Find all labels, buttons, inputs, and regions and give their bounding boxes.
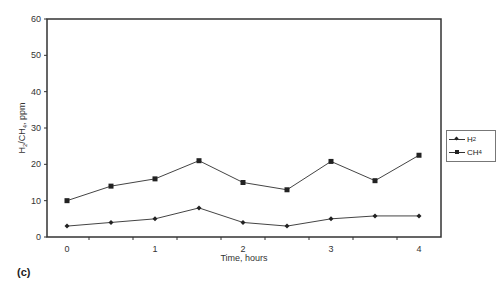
y-axis-label: H2/CH4, ppm [17, 102, 28, 153]
svg-text:0: 0 [64, 244, 69, 254]
diamond-marker-icon [449, 139, 465, 140]
x-axis-label: Time, hours [220, 253, 268, 263]
chart-legend: H2 CH4 [446, 130, 496, 162]
svg-text:50: 50 [31, 50, 41, 60]
svg-text:30: 30 [31, 123, 41, 133]
svg-text:4: 4 [416, 244, 421, 254]
legend-item-h2: H2 [449, 133, 476, 145]
panel-label: (c) [17, 266, 30, 278]
svg-text:60: 60 [31, 14, 41, 24]
svg-text:3: 3 [328, 244, 333, 254]
x-axis-ticks: 01234 [64, 237, 421, 254]
svg-text:1: 1 [152, 244, 157, 254]
legend-label-ch4: CH [467, 148, 479, 157]
svg-text:10: 10 [31, 196, 41, 206]
line-chart: 0102030405060 01234 Time, hours H2/CH4, … [0, 0, 501, 291]
legend-item-ch4: CH4 [449, 146, 482, 158]
data-series [65, 153, 422, 229]
y-axis-ticks: 0102030405060 [31, 14, 47, 242]
svg-text:20: 20 [31, 159, 41, 169]
plot-area-frame [47, 19, 441, 237]
legend-sub-ch4: 4 [479, 149, 482, 155]
svg-text:40: 40 [31, 87, 41, 97]
square-marker-icon [449, 152, 465, 153]
svg-text:0: 0 [36, 232, 41, 242]
legend-sub-h2: 2 [473, 136, 476, 142]
